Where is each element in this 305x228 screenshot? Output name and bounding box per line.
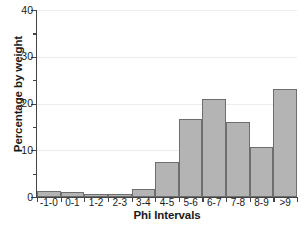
bar bbox=[132, 189, 156, 197]
y-tick-label: 30 bbox=[7, 51, 33, 62]
y-tick-label: 0 bbox=[7, 192, 33, 203]
bar bbox=[226, 122, 250, 197]
gridline bbox=[37, 104, 297, 105]
y-tick-label: 40 bbox=[7, 5, 33, 16]
plot-area bbox=[37, 10, 297, 197]
x-tick-label: -1-0 bbox=[37, 198, 61, 208]
bar bbox=[179, 119, 203, 197]
bar bbox=[273, 89, 297, 197]
bar bbox=[250, 147, 274, 197]
x-tick-label: 1-2 bbox=[84, 198, 108, 208]
x-tick-label: 5-6 bbox=[179, 198, 203, 208]
x-tick-label: 4-5 bbox=[155, 198, 179, 208]
histogram-chart: Percentage by weight 010203040 -1-00-11-… bbox=[0, 0, 305, 228]
x-tick-label: >9 bbox=[273, 198, 297, 208]
bar bbox=[155, 162, 179, 197]
x-tick-label: 0-1 bbox=[61, 198, 85, 208]
gridline bbox=[37, 10, 297, 11]
x-tick-label: 8-9 bbox=[250, 198, 274, 208]
bar bbox=[202, 99, 226, 197]
gridline bbox=[37, 57, 297, 58]
x-tick-label: 3-4 bbox=[132, 198, 156, 208]
y-tick-label: 10 bbox=[7, 145, 33, 156]
x-axis-title: Phi Intervals bbox=[37, 209, 297, 221]
x-tick-label: 7-8 bbox=[226, 198, 250, 208]
x-tick-label: 6-7 bbox=[202, 198, 226, 208]
y-tick-label: 20 bbox=[7, 98, 33, 109]
x-tick-label: 2-3 bbox=[108, 198, 132, 208]
x-tick-mark bbox=[297, 197, 298, 202]
